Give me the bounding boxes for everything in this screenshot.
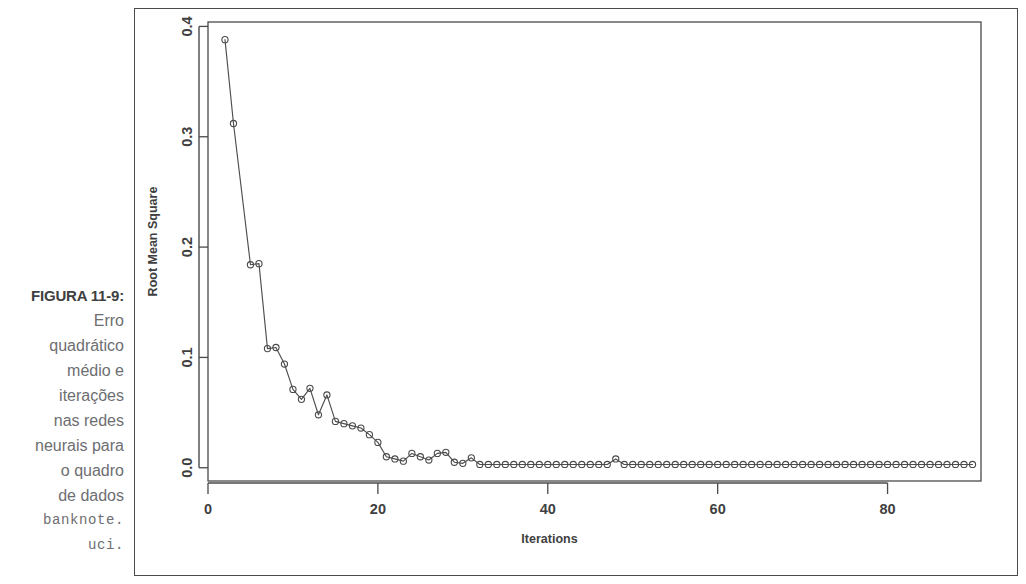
x-axis-title-text: Iterations	[521, 532, 577, 546]
plot-box-rect	[208, 22, 981, 481]
series-markers	[222, 37, 976, 468]
y-tick-label: 0.4	[179, 16, 195, 36]
x-axis-tick-labels: 020406080	[204, 501, 896, 517]
x-tick-label: 40	[540, 501, 556, 517]
y-tick-label: 0.2	[179, 237, 195, 257]
plot-canvas: 0.00.10.20.30.4 020406080 Root Mean Squa…	[135, 9, 1019, 577]
series-path	[225, 40, 973, 465]
x-tick-label: 20	[370, 501, 386, 517]
caption-line-dataset-suffix: uci.	[0, 533, 124, 558]
y-axis-ticks	[199, 26, 208, 467]
figure-number-label: FIGURA 11-9:	[0, 283, 124, 308]
caption-line: quadrático	[0, 333, 124, 358]
rms-vs-iterations-chart: 0.00.10.20.30.4 020406080 Root Mean Squa…	[135, 9, 1019, 577]
y-axis-title: Root Mean Square	[146, 187, 160, 297]
figure-frame: 0.00.10.20.30.4 020406080 Root Mean Squa…	[134, 8, 1018, 576]
x-tick-label: 60	[710, 501, 726, 517]
x-axis-ticks	[208, 483, 888, 494]
y-tick-label: 0.3	[179, 127, 195, 147]
y-axis-title-text: Root Mean Square	[146, 187, 160, 297]
series-polyline	[225, 40, 973, 465]
caption-line: iterações	[0, 383, 124, 408]
caption-line: o quadro	[0, 458, 124, 483]
caption-line-dataset: banknote.	[0, 508, 124, 533]
x-axis-title: Iterations	[521, 532, 577, 546]
caption-line: Erro	[0, 308, 124, 333]
figure-caption: FIGURA 11-9: Erro quadrático médio e ite…	[0, 283, 124, 558]
x-tick-label: 80	[879, 501, 895, 517]
plot-border	[208, 22, 981, 481]
caption-line: médio e	[0, 358, 124, 383]
caption-line: neurais para	[0, 433, 124, 458]
y-tick-label: 0.1	[179, 347, 195, 367]
caption-line: nas redes	[0, 408, 124, 433]
x-tick-label: 0	[204, 501, 212, 517]
y-axis-tick-labels: 0.00.10.20.30.4	[179, 16, 195, 478]
caption-line: de dados	[0, 483, 124, 508]
y-tick-label: 0.0	[179, 458, 195, 478]
